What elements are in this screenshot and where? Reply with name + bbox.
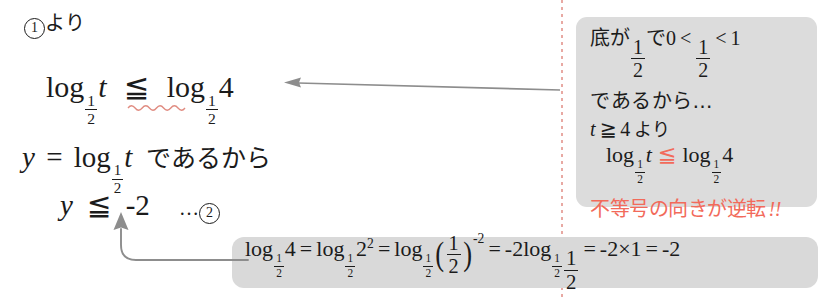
- less-than-sign-2: <: [715, 27, 726, 49]
- explanation-callout-box: 底が 1 2 で0< 1 2 <1 であるから… t≧4より log 1 2 t…: [576, 17, 817, 207]
- callout-mid-text: で: [646, 26, 666, 50]
- less-than-sign-1: <: [680, 27, 691, 49]
- substitution-trailing-text: であるから: [146, 144, 271, 173]
- inequality-relation-symbol: ≦: [124, 72, 150, 102]
- main-inequality: log 1 2 t ≦ log 1 2 4: [46, 72, 234, 127]
- callout-log-base: 1 2: [635, 159, 645, 185]
- d-equals-4: =: [583, 236, 595, 261]
- callout-to-inequality-arrow: [284, 76, 564, 94]
- d-base-4: 1 2: [552, 253, 562, 279]
- d-log-3: log: [394, 236, 422, 261]
- callout-log-base-2: 1 2: [712, 159, 722, 185]
- red-wavy-underline-icon: [128, 103, 185, 111]
- d-final-value: -2: [662, 236, 680, 261]
- log-operator: log: [46, 70, 84, 103]
- d-equals-2: =: [378, 236, 390, 261]
- d-base-2: 1 2: [345, 253, 355, 279]
- d-inner-fraction: 1 2: [447, 233, 461, 276]
- d-exponent-3: -2: [473, 231, 484, 246]
- marker-suffix-text: より: [45, 11, 85, 35]
- d-base-1: 1 2: [274, 253, 284, 279]
- derivation-expression: log 1 2 4=log 1 2 22=log 1 2 ( 1 2 )-2=-…: [245, 232, 680, 293]
- callout-log-operator: log: [606, 142, 634, 167]
- callout-line-inequality: log 1 2 t≦log 1 2 4: [606, 144, 805, 185]
- callout-line-dearukara: であるから…: [590, 85, 805, 114]
- value-zero: 0: [666, 27, 676, 49]
- d-equals-5: =: [646, 236, 658, 261]
- d-log-4: log: [523, 236, 551, 261]
- d-coefficient-4: -2: [505, 236, 523, 261]
- callout-line-base-condition: 底が 1 2 で0< 1 2 <1: [590, 28, 805, 80]
- derivation-box: log 1 2 4=log 1 2 22=log 1 2 ( 1 2 )-2=-…: [232, 237, 818, 288]
- log-argument-4: 4: [219, 70, 234, 103]
- equals-sign: =: [46, 141, 62, 173]
- right-paren: ): [463, 240, 472, 269]
- d-term-5: -2×1: [600, 236, 642, 261]
- warning-exclamations: !!: [769, 198, 781, 220]
- value-one: 1: [731, 27, 741, 49]
- log-argument-t: t: [98, 70, 106, 103]
- d-equals-3: =: [488, 236, 500, 261]
- d-parenthesized-fraction: ( 1 2 ): [434, 233, 473, 276]
- source-reference-line: 1より: [24, 13, 85, 39]
- log-base-one-half: 1 2: [85, 93, 97, 127]
- d-arg-1: 4: [285, 236, 296, 261]
- circled-number-1: 1: [24, 18, 45, 39]
- fraction-one-half-a: 1 2: [631, 37, 645, 80]
- callout-log-operator-2: log: [682, 142, 710, 167]
- callout-log-argument-4: 4: [722, 142, 733, 167]
- callout-line-t-condition: t≧4より: [590, 119, 805, 139]
- warning-message: 不等号の向きが逆転: [590, 197, 766, 221]
- d-arg-fraction-4: 1 2: [564, 248, 578, 293]
- d-log-2: log: [316, 236, 344, 261]
- greater-equal-symbol: ≧: [599, 119, 616, 139]
- callout-yori-text: より: [634, 119, 670, 140]
- value-four: 4: [620, 118, 630, 140]
- log-base-one-half-2: 1 2: [206, 93, 218, 127]
- d-exponent-2: 2: [367, 235, 374, 250]
- variable-t: t: [590, 118, 596, 140]
- log-operator-2: log: [167, 70, 205, 103]
- log-operator-3: log: [74, 141, 111, 173]
- d-base-3: 1 2: [423, 253, 433, 279]
- fraction-one-half-b: 1 2: [696, 37, 710, 80]
- d-equals-1: =: [300, 236, 312, 261]
- left-paren: (: [435, 240, 444, 269]
- log-argument-t-2: t: [124, 141, 132, 173]
- callout-prefix-text: 底が: [590, 26, 630, 50]
- callout-highlighted-relation: ≦: [658, 144, 677, 166]
- derivation-to-result-arrow: [108, 212, 258, 272]
- callout-warning-text: 不等号の向きが逆転!!: [590, 193, 805, 222]
- callout-log-argument-t: t: [646, 142, 652, 167]
- d-arg-2: 2: [356, 236, 367, 261]
- variable-y-2: y: [60, 189, 73, 221]
- variable-y: y: [22, 141, 35, 173]
